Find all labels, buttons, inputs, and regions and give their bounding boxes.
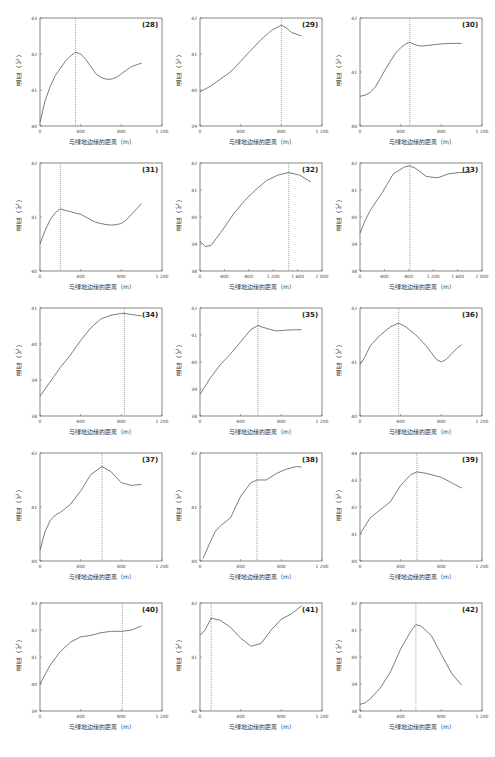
x-tick-label: 0 — [359, 714, 362, 719]
y-tick-label: 41 — [191, 188, 197, 193]
y-axis-label: 温度（℃） — [174, 635, 183, 671]
x-tick-label: 400 — [236, 419, 245, 424]
y-tick-label: 38 — [31, 414, 37, 419]
x-tick-label: 400 — [76, 714, 85, 719]
x-axis-label: 与绿地边缘的距离（m） — [192, 137, 332, 146]
x-tick-label: 800 — [437, 564, 446, 569]
x-tick-label: 1 200 — [316, 129, 329, 134]
panel-number: (39) — [462, 456, 478, 464]
x-tick-label: 800 — [245, 274, 254, 279]
line-chart: 04008001 200404142 — [12, 155, 172, 290]
x-tick-label: 1 200 — [156, 714, 169, 719]
y-tick-label: 38 — [191, 414, 197, 419]
y-tick-label: 42 — [191, 16, 197, 21]
chart-panel: 04008001 200404142(37)与绿地边缘的距离（m）温度（℃） — [12, 445, 172, 585]
chart-panel: 04008001 200404142(31)与绿地边缘的距离（m）温度（℃） — [12, 155, 172, 295]
line-chart: 04008001 20040414243 — [12, 10, 172, 145]
y-axis-label: 温度（℃） — [14, 340, 23, 376]
x-tick-label: 400 — [76, 419, 85, 424]
x-axis-label: 与绿地边缘的距离（m） — [32, 137, 172, 146]
x-axis-label: 与绿地边缘的距离（m） — [352, 722, 492, 731]
y-axis-label: 温度（℃） — [334, 635, 343, 671]
y-tick-label: 40 — [31, 269, 37, 274]
x-tick-label: 400 — [220, 274, 229, 279]
line-chart: 04008001 200404142 — [332, 300, 492, 435]
x-tick-label: 1 200 — [476, 419, 489, 424]
y-axis-label: 温度（℃） — [174, 50, 183, 86]
y-tick-label: 41 — [191, 655, 197, 660]
chart-panel: 04008001 2003839404142(35)与绿地边缘的距离（m）温度（… — [172, 300, 332, 440]
plot-frame — [360, 308, 482, 416]
x-tick-label: 800 — [405, 274, 414, 279]
y-tick-label: 41 — [31, 215, 37, 220]
y-tick-label: 41 — [31, 505, 37, 510]
panel-number: (28) — [142, 21, 158, 29]
x-axis-label: 与绿地边缘的距离（m） — [192, 572, 332, 581]
y-tick-label: 42 — [351, 505, 357, 510]
x-axis-label: 与绿地边缘的距离（m） — [32, 427, 172, 436]
y-tick-label: 41 — [191, 505, 197, 510]
x-tick-label: 800 — [277, 419, 286, 424]
temperature-line — [360, 323, 462, 365]
x-tick-label: 800 — [277, 129, 286, 134]
x-tick-label: 0 — [39, 419, 42, 424]
y-tick-label: 43 — [31, 601, 37, 606]
line-chart: 04008001 200404142 — [332, 10, 492, 145]
x-tick-label: 400 — [396, 129, 405, 134]
panel-number: (36) — [462, 311, 478, 319]
x-axis-label: 与绿地边缘的距离（m） — [192, 282, 332, 291]
x-axis-label: 与绿地边缘的距离（m） — [192, 722, 332, 731]
x-tick-label: 2 000 — [476, 274, 489, 279]
temperature-line — [40, 467, 142, 551]
y-tick-label: 40 — [191, 559, 197, 564]
x-tick-label: 0 — [199, 714, 202, 719]
x-tick-label: 800 — [437, 129, 446, 134]
y-tick-label: 40 — [351, 559, 357, 564]
line-chart: 04008001 2004041424344 — [332, 445, 492, 580]
temperature-line — [360, 472, 462, 534]
y-tick-label: 39 — [191, 124, 197, 129]
y-axis-label: 温度（℃） — [334, 50, 343, 86]
plot-frame — [200, 603, 322, 711]
x-tick-label: 800 — [117, 129, 126, 134]
temperature-line — [360, 42, 462, 96]
y-tick-label: 40 — [351, 414, 357, 419]
plot-frame — [40, 308, 162, 416]
x-tick-label: 0 — [199, 274, 202, 279]
x-tick-label: 1 200 — [316, 419, 329, 424]
x-axis-label: 与绿地边缘的距离（m） — [192, 427, 332, 436]
temperature-line — [360, 625, 462, 705]
y-tick-label: 42 — [191, 161, 197, 166]
x-tick-label: 0 — [199, 564, 202, 569]
x-axis-label: 与绿地边缘的距离（m） — [32, 722, 172, 731]
plot-frame — [360, 453, 482, 561]
panel-number: (31) — [142, 166, 158, 174]
x-tick-label: 800 — [277, 714, 286, 719]
panel-number: (38) — [302, 456, 318, 464]
chart-grid: 04008001 20040414243(28)与绿地边缘的距离（m）温度（℃）… — [0, 0, 495, 757]
y-tick-label: 42 — [351, 16, 357, 21]
panel-number: (37) — [142, 456, 158, 464]
x-tick-label: 0 — [359, 564, 362, 569]
x-tick-label: 1 200 — [476, 129, 489, 134]
x-tick-label: 400 — [236, 564, 245, 569]
x-tick-label: 1 600 — [291, 274, 304, 279]
y-tick-label: 42 — [191, 601, 197, 606]
y-tick-label: 39 — [31, 709, 37, 714]
x-tick-label: 1 200 — [156, 129, 169, 134]
temperature-line — [40, 204, 142, 245]
line-chart: 04008001 20039404142 — [172, 10, 332, 145]
y-axis-label: 温度（℃） — [14, 195, 23, 231]
y-axis-label: 温度（℃） — [14, 635, 23, 671]
x-tick-label: 0 — [39, 129, 42, 134]
line-chart: 04008001 20038394041 — [12, 300, 172, 435]
x-tick-label: 400 — [396, 714, 405, 719]
chart-panel: 04008001 2004041424344(39)与绿地边缘的距离（m）温度（… — [332, 445, 492, 585]
plot-frame — [200, 18, 322, 126]
y-tick-label: 42 — [31, 52, 37, 57]
y-axis-label: 温度（℃） — [14, 50, 23, 86]
line-chart: 04008001 200404142 — [12, 445, 172, 580]
x-tick-label: 2 000 — [316, 274, 329, 279]
y-tick-label: 41 — [351, 70, 357, 75]
y-tick-label: 41 — [191, 52, 197, 57]
